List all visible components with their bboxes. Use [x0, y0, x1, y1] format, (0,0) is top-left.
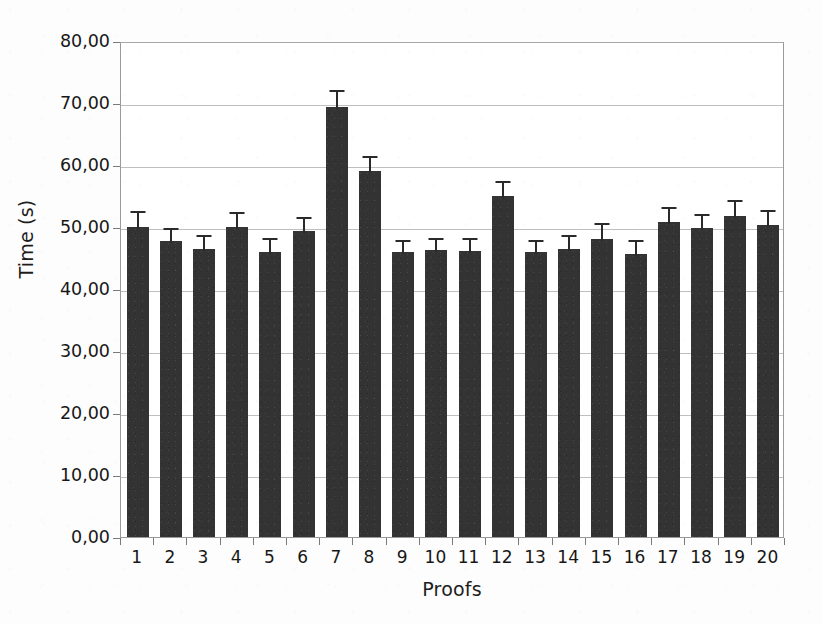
x-tick-mark	[220, 538, 221, 545]
y-tick-mark	[113, 414, 120, 415]
x-tick-mark	[784, 538, 785, 545]
error-bar-line	[369, 156, 371, 173]
bar-slot	[619, 43, 652, 537]
bar	[691, 228, 713, 537]
y-tick-mark	[113, 352, 120, 353]
bar-slot	[287, 43, 320, 537]
error-bar-line	[236, 212, 238, 229]
x-tick-mark	[319, 538, 320, 545]
plot-area	[120, 42, 784, 538]
x-tick-label: 20	[747, 547, 787, 567]
error-bar-line	[336, 90, 338, 109]
error-bar-cap	[396, 240, 411, 242]
bar	[625, 254, 647, 537]
bar	[724, 216, 746, 537]
error-bar-cap	[661, 207, 676, 209]
x-tick-mark	[253, 538, 254, 545]
bar	[558, 249, 580, 537]
bar-slot	[719, 43, 752, 537]
bar-slot	[586, 43, 619, 537]
bar	[226, 227, 248, 537]
y-tick-label: 10,00	[24, 465, 110, 485]
error-bar-cap	[296, 217, 311, 219]
bar	[359, 171, 381, 537]
x-tick-mark	[751, 538, 752, 545]
bar-slot	[221, 43, 254, 537]
x-tick-mark	[718, 538, 719, 545]
bar	[459, 251, 481, 537]
x-tick-mark	[485, 538, 486, 545]
x-tick-mark	[286, 538, 287, 545]
error-bar-line	[535, 240, 537, 254]
x-tick-mark	[618, 538, 619, 545]
bar-slot	[553, 43, 586, 537]
bar-slot	[420, 43, 453, 537]
bar	[293, 231, 315, 537]
bar-slot	[519, 43, 552, 537]
bar-slot	[121, 43, 154, 537]
error-bar-cap	[462, 238, 477, 240]
y-tick-mark	[113, 42, 120, 43]
error-bar-line	[701, 214, 703, 230]
x-tick-mark	[552, 538, 553, 545]
bar-slot	[652, 43, 685, 537]
error-bar-line	[303, 217, 305, 233]
bar-slot	[387, 43, 420, 537]
bar	[127, 227, 149, 537]
y-tick-label: 0,00	[24, 527, 110, 547]
error-bar-cap	[528, 240, 543, 242]
bar	[392, 252, 414, 537]
x-tick-mark	[386, 538, 387, 545]
y-tick-label: 50,00	[24, 217, 110, 237]
y-tick-label: 60,00	[24, 155, 110, 175]
y-tick-mark	[113, 476, 120, 477]
x-tick-mark	[419, 538, 420, 545]
error-bar-line	[734, 200, 736, 219]
error-bar-cap	[362, 156, 377, 158]
error-bar-line	[601, 223, 603, 242]
y-tick-label: 80,00	[24, 31, 110, 51]
error-bar-cap	[628, 240, 643, 242]
y-tick-label: 20,00	[24, 403, 110, 423]
bar	[658, 222, 680, 537]
error-bar-cap	[230, 212, 245, 214]
error-bar-cap	[595, 223, 610, 225]
bar-slot	[320, 43, 353, 537]
bar-slot	[685, 43, 718, 537]
error-bar-cap	[728, 200, 743, 202]
bar	[757, 225, 779, 537]
bar	[591, 239, 613, 537]
error-bar-line	[568, 235, 570, 251]
bar-slot	[154, 43, 187, 537]
x-tick-mark	[120, 538, 121, 545]
x-tick-mark	[186, 538, 187, 545]
bar-slot	[187, 43, 220, 537]
bar	[193, 249, 215, 537]
error-bar-line	[435, 238, 437, 252]
x-tick-mark	[651, 538, 652, 545]
x-tick-mark	[352, 538, 353, 545]
error-bar-line	[170, 228, 172, 243]
bar-slot	[453, 43, 486, 537]
error-bar-line	[502, 181, 504, 198]
y-tick-mark	[113, 228, 120, 229]
error-bar-line	[767, 210, 769, 227]
error-bar-line	[469, 238, 471, 252]
error-bar-cap	[495, 181, 510, 183]
error-bar-cap	[562, 235, 577, 237]
error-bar-line	[203, 235, 205, 251]
y-tick-mark	[113, 538, 120, 539]
error-bar-line	[635, 240, 637, 256]
x-tick-mark	[684, 538, 685, 545]
bar-slot	[353, 43, 386, 537]
error-bar-cap	[196, 235, 211, 237]
error-bar-cap	[130, 211, 145, 213]
error-bar-cap	[329, 90, 344, 92]
chart-figure: Time (s) Proofs 80,0070,0060,0050,0040,0…	[0, 0, 823, 624]
error-bar-cap	[694, 214, 709, 216]
error-bar-cap	[761, 210, 776, 212]
x-tick-mark	[585, 538, 586, 545]
error-bar-cap	[429, 238, 444, 240]
x-tick-mark	[518, 538, 519, 545]
y-tick-label: 30,00	[24, 341, 110, 361]
